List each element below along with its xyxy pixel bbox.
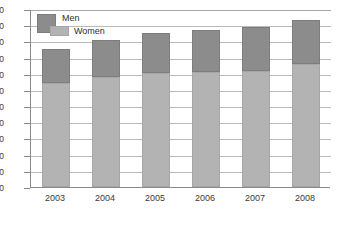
gridline — [31, 42, 331, 43]
y-tick-label: 450 — [0, 38, 4, 47]
y-tick-mark — [24, 188, 30, 189]
bar-group[interactable] — [92, 40, 120, 187]
bar-group[interactable] — [192, 30, 220, 187]
gridline — [31, 107, 331, 108]
x-tick-label: 2004 — [80, 194, 130, 203]
bar-group[interactable] — [142, 33, 170, 187]
bar-segment-women[interactable] — [142, 73, 170, 187]
gridline — [31, 10, 331, 11]
bar-group[interactable] — [42, 48, 70, 187]
x-tick-label: 2008 — [280, 194, 330, 203]
legend-label-men: Men — [62, 14, 80, 23]
bar-segment-men[interactable] — [42, 49, 70, 84]
y-tick-label: 250 — [0, 103, 4, 112]
x-tick-label: 2003 — [30, 194, 80, 203]
gridline — [31, 123, 331, 124]
bar-segment-men[interactable] — [242, 27, 270, 71]
chart-legend: Men Women — [34, 12, 126, 40]
y-tick-label: 100 — [0, 152, 4, 161]
bar-segment-women[interactable] — [42, 83, 70, 187]
gridline — [31, 91, 331, 92]
legend-swatch-women — [50, 26, 69, 36]
bar-segment-women[interactable] — [242, 71, 270, 187]
y-tick-label: 50 — [0, 168, 4, 177]
y-tick-label: 400 — [0, 55, 4, 64]
bar-segment-men[interactable] — [192, 30, 220, 72]
y-tick-label: 550 — [0, 6, 4, 15]
bar-segment-men[interactable] — [92, 40, 120, 77]
bar-segment-women[interactable] — [292, 64, 320, 187]
y-tick-label: 350 — [0, 71, 4, 80]
gridline — [31, 172, 331, 173]
y-tick-label: 500 — [0, 22, 4, 31]
x-tick-label: 2006 — [180, 194, 230, 203]
y-tick-label: 200 — [0, 119, 4, 128]
legend-label-women: Women — [74, 27, 105, 36]
bar-segment-men[interactable] — [142, 33, 170, 73]
bar-segment-men[interactable] — [292, 20, 320, 64]
gridline — [31, 139, 331, 140]
x-tick-label: 2005 — [130, 194, 180, 203]
bar-segment-women[interactable] — [92, 77, 120, 187]
gridline — [31, 75, 331, 76]
y-tick-label: 150 — [0, 135, 4, 144]
bar-group[interactable] — [242, 27, 270, 187]
gridline — [31, 59, 331, 60]
stacked-bar-chart: 550500450400350300250200150100500 200320… — [0, 0, 338, 227]
bar-segment-women[interactable] — [192, 72, 220, 187]
y-tick-label: 300 — [0, 87, 4, 96]
y-tick-label: 0 — [0, 184, 4, 193]
bar-group[interactable] — [292, 20, 320, 187]
x-tick-label: 2007 — [230, 194, 280, 203]
gridline — [31, 156, 331, 157]
